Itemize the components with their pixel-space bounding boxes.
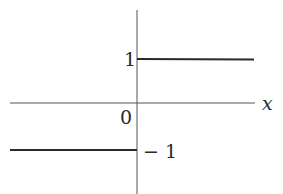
origin-label: 0 (120, 106, 132, 128)
y-tick-label-1: 1 (124, 48, 136, 70)
y-tick-label-neg-1: − 1 (143, 140, 177, 162)
x-axis-label: x (262, 92, 273, 114)
sign-function-graph: 1 0 − 1 x (0, 0, 283, 194)
upper-branch-line (137, 59, 254, 60)
